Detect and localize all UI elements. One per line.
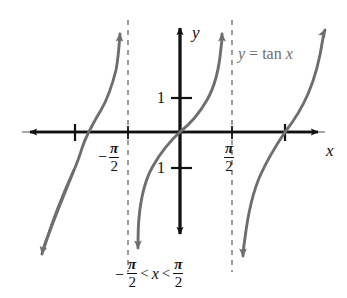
- caption-fraction-left: π 2: [127, 257, 137, 290]
- tan-graph-figure: y x y = tan x 1 1 − π 2 π 2 − π 2 < x <: [0, 0, 347, 298]
- curve-equation-function: tan: [262, 45, 282, 62]
- tan-curve-right-branch-lower: [243, 132, 285, 256]
- curve-equation-equals: =: [249, 45, 258, 62]
- curve-equation-variable: x: [286, 45, 293, 62]
- x-tick-label-plus-half-pi: π 2: [224, 142, 234, 175]
- caption-fraction-right: π 2: [173, 257, 183, 290]
- caption-minus-sign: −: [115, 267, 124, 283]
- fraction-numerator: π: [127, 257, 137, 274]
- minus-sign: −: [98, 149, 107, 165]
- y-tick-label-negative-one: 1: [157, 160, 165, 176]
- fraction-numerator: π: [224, 141, 234, 158]
- tan-curve-middle-branch-lower: [138, 132, 180, 248]
- fraction-denominator: 2: [224, 158, 234, 175]
- y-tick-label-positive-one: 1: [157, 90, 165, 106]
- fraction-denominator: 2: [109, 158, 119, 175]
- caption-less-than-1: <: [140, 266, 148, 281]
- fraction-numerator: π: [173, 257, 183, 274]
- y-axis-label: y: [192, 24, 200, 41]
- tan-curve-left-branch-lower: [42, 170, 74, 254]
- fraction-denominator: 2: [173, 274, 183, 291]
- fraction-half-pi-left: π 2: [109, 141, 119, 174]
- caption-less-than-2: <: [162, 266, 170, 281]
- caption-variable: x: [152, 266, 159, 282]
- fraction-denominator: 2: [127, 274, 137, 291]
- x-axis-label: x: [326, 142, 334, 159]
- plot-canvas: [0, 0, 347, 298]
- curve-equation-label: y = tan x: [238, 46, 293, 62]
- domain-caption: − π 2 < x < π 2: [115, 258, 183, 291]
- x-tick-label-minus-half-pi: − π 2: [98, 142, 119, 175]
- fraction-numerator: π: [109, 141, 119, 158]
- fraction-half-pi-right: π 2: [224, 141, 234, 174]
- curve-equation-lhs: y: [238, 45, 245, 62]
- tan-curve-middle-branch-upper: [180, 34, 222, 132]
